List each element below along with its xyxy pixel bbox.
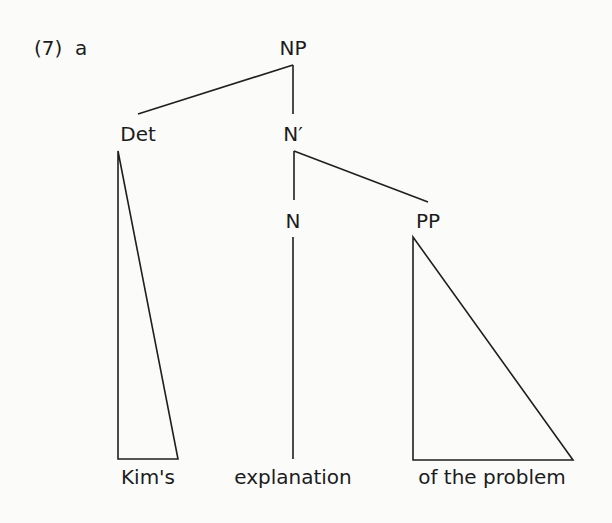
- node-det: Det: [120, 124, 156, 144]
- node-np: NP: [279, 38, 306, 58]
- leaf-kims: Kim's: [121, 467, 175, 487]
- branch-np-det: [138, 65, 293, 114]
- node-n: N: [286, 211, 301, 231]
- leaf-explanation: explanation: [234, 467, 352, 487]
- leaf-of-the-problem: of the problem: [418, 467, 566, 487]
- tree-branches: [0, 0, 612, 523]
- node-pp: PP: [416, 211, 440, 231]
- pp-triangle: [413, 237, 573, 460]
- det-triangle: [118, 151, 178, 459]
- syntax-tree-figure: (7) a NP Det N′ N PP Kim's explanation o…: [0, 0, 612, 523]
- node-nbar: N′: [283, 124, 303, 144]
- branch-nbar-pp: [294, 151, 428, 202]
